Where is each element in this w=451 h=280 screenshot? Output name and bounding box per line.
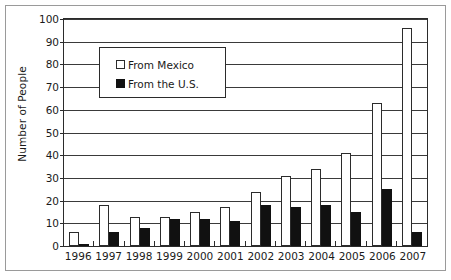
y-tick-label: 70	[46, 81, 59, 93]
x-tick-label: 2000	[185, 250, 215, 262]
bar-mexico	[341, 153, 351, 246]
chart-figure: Number of People 0102030405060708090100 …	[0, 0, 451, 280]
bar-us	[351, 212, 361, 246]
legend-swatch-us-icon	[116, 79, 125, 88]
y-axis-title: Number of People	[16, 44, 28, 184]
x-tick-label: 2001	[215, 250, 245, 262]
bar-us	[200, 219, 210, 246]
bar-mexico	[160, 217, 170, 247]
y-tick-label: 0	[52, 240, 59, 252]
legend-label-us: From the U.S.	[128, 78, 199, 90]
y-tick-label: 10	[46, 217, 59, 229]
legend-swatch-mexico-icon	[116, 60, 125, 69]
x-tick-label: 2006	[367, 250, 397, 262]
y-tick-label: 80	[46, 58, 59, 70]
x-tick-label: 2007	[398, 250, 428, 262]
bar-us	[382, 189, 392, 246]
bar-mexico	[99, 205, 109, 246]
bar-group	[306, 19, 336, 246]
bar-us	[412, 232, 422, 246]
chart-legend: From Mexico From the U.S.	[99, 47, 226, 98]
bar-us	[321, 205, 331, 246]
y-tick-mark	[60, 246, 64, 247]
y-tick-label: 90	[46, 36, 59, 48]
bar-group	[367, 19, 397, 246]
bar-us	[261, 205, 271, 246]
y-tick-label: 30	[46, 172, 59, 184]
bar-group	[64, 19, 94, 246]
y-tick-label: 20	[46, 195, 59, 207]
bar-mexico	[220, 207, 230, 246]
bar-mexico	[311, 169, 321, 246]
bar-us	[230, 221, 240, 246]
legend-label-mexico: From Mexico	[128, 59, 194, 71]
bar-group	[397, 19, 427, 246]
bar-us	[140, 228, 150, 246]
x-tick-label: 1999	[154, 250, 184, 262]
bar-mexico	[281, 176, 291, 246]
legend-item-mexico: From Mexico	[116, 55, 225, 74]
bar-group	[276, 19, 306, 246]
bar-us	[170, 219, 180, 246]
bar-mexico	[69, 232, 79, 246]
y-tick-label: 40	[46, 149, 59, 161]
bar-mexico	[130, 217, 140, 247]
bar-mexico	[251, 192, 261, 246]
legend-item-us: From the U.S.	[116, 74, 225, 93]
bar-us	[109, 232, 119, 246]
bar-mexico	[402, 28, 412, 246]
x-tick-label: 2004	[306, 250, 336, 262]
bar-group	[246, 19, 276, 246]
x-axis-labels: 1996199719981999200020012002200320042005…	[63, 250, 428, 262]
x-tick-label: 1996	[63, 250, 93, 262]
y-tick-label: 50	[46, 127, 59, 139]
x-tick-label: 2003	[276, 250, 306, 262]
x-tick-label: 1998	[124, 250, 154, 262]
x-tick-label: 1997	[93, 250, 123, 262]
bar-us	[79, 244, 89, 246]
y-tick-label: 60	[46, 104, 59, 116]
bar-group	[336, 19, 366, 246]
bar-us	[291, 207, 301, 246]
bar-mexico	[372, 103, 382, 246]
x-tick-label: 2005	[337, 250, 367, 262]
y-tick-label: 100	[39, 13, 59, 25]
x-tick-label: 2002	[246, 250, 276, 262]
bar-mexico	[190, 212, 200, 246]
